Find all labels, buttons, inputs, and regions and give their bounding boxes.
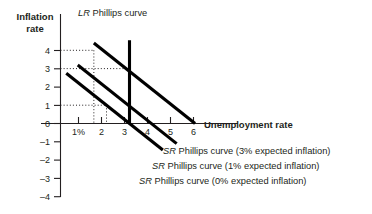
y-axis-title-line2: rate xyxy=(26,23,43,34)
svg-text:–2: –2 xyxy=(40,155,50,165)
sr-curve-label-3pct-text: Phillips curve (3% expected inflation) xyxy=(176,146,331,156)
svg-text:0: 0 xyxy=(45,119,50,129)
y-axis-title-line1: Inflation xyxy=(17,11,54,22)
svg-text:–3: –3 xyxy=(40,174,50,184)
lr-curve-label-text: Phillips curve xyxy=(90,8,147,18)
phillips-curve-figure: 4 3 2 1 0 –1 –2 –3 –4 1% 2 3 4 5 6 Infla… xyxy=(0,0,372,214)
svg-text:–1: –1 xyxy=(40,137,50,147)
svg-text:4: 4 xyxy=(45,46,50,56)
x-axis-title: Unemployment rate xyxy=(204,119,293,131)
sr-curve-label-1pct-prefix: SR xyxy=(152,161,165,171)
sr-curve-label-0pct-text: Phillips curve (0% expected inflation) xyxy=(152,176,307,186)
svg-text:5: 5 xyxy=(168,127,173,137)
svg-text:2: 2 xyxy=(45,82,50,92)
svg-text:–4: –4 xyxy=(40,192,50,202)
svg-text:1%: 1% xyxy=(72,127,85,137)
svg-text:6: 6 xyxy=(191,127,196,137)
svg-text:3: 3 xyxy=(122,127,127,137)
svg-text:3: 3 xyxy=(45,64,50,74)
sr-curve-label-3pct-prefix: SR xyxy=(163,146,176,156)
y-axis-title: Inflation rate xyxy=(6,11,64,34)
y-tick-marks xyxy=(54,51,61,197)
sr-curve-label-0pct-prefix: SR xyxy=(139,176,152,186)
lr-curve-label-prefix: LR xyxy=(78,8,90,18)
sr-curve-label-0pct: SR Phillips curve (0% expected inflation… xyxy=(139,176,306,186)
svg-text:1: 1 xyxy=(45,101,50,111)
x-tick-marks xyxy=(79,117,194,124)
sr-curve-3pct xyxy=(94,43,195,124)
sr-curve-1pct xyxy=(78,65,177,144)
svg-text:2: 2 xyxy=(99,127,104,137)
sr-curve-label-1pct: SR Phillips curve (1% expected inflation… xyxy=(152,161,319,171)
sr-curve-label-3pct: SR Phillips curve (3% expected inflation… xyxy=(163,146,330,156)
sr-curve-label-1pct-text: Phillips curve (1% expected inflation) xyxy=(165,161,320,171)
lr-curve-label: LR Phillips curve xyxy=(78,8,147,18)
